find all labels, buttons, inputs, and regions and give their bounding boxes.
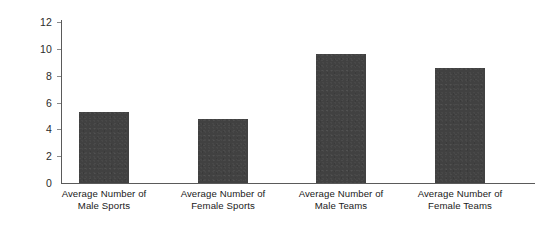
- x-axis-label-line2: Female Teams: [400, 200, 520, 212]
- plot-area: [62, 22, 535, 183]
- x-axis-label: Average Number ofMale Teams: [281, 188, 401, 212]
- bar: [79, 112, 129, 183]
- x-axis-label-line2: Male Sports: [44, 200, 164, 212]
- x-axis-label-line2: Male Teams: [281, 200, 401, 212]
- y-axis-tick-label: 10: [22, 44, 52, 54]
- bar: [316, 54, 366, 183]
- x-axis-label: Average Number ofFemale Sports: [163, 188, 283, 212]
- x-axis-label: Average Number ofMale Sports: [44, 188, 164, 212]
- y-axis-tick-mark: [57, 76, 61, 77]
- y-axis-tick-mark: [57, 129, 61, 130]
- y-axis-tick-label: 6: [22, 98, 52, 108]
- y-axis-tick-label: 12: [22, 17, 52, 27]
- y-axis-tick-mark: [57, 22, 61, 23]
- x-axis-label-line1: Average Number of: [44, 188, 164, 200]
- y-axis-tick-label: 8: [22, 71, 52, 81]
- y-axis-tick-label: 4: [22, 124, 52, 134]
- x-axis-label: Average Number ofFemale Teams: [400, 188, 520, 212]
- y-axis-tick-mark: [57, 103, 61, 104]
- x-axis-label-line1: Average Number of: [281, 188, 401, 200]
- bar: [435, 68, 485, 183]
- x-axis-line: [61, 183, 535, 184]
- bar-chart: 024681012 Average Number ofMale SportsAv…: [0, 0, 546, 230]
- x-axis-label-line2: Female Sports: [163, 200, 283, 212]
- y-axis-tick-label: 0: [22, 178, 52, 188]
- bar: [198, 119, 248, 183]
- y-axis-tick-mark: [57, 49, 61, 50]
- y-axis-tick-label: 2: [22, 151, 52, 161]
- x-axis-label-line1: Average Number of: [400, 188, 520, 200]
- y-axis-tick-mark: [57, 156, 61, 157]
- x-axis-label-line1: Average Number of: [163, 188, 283, 200]
